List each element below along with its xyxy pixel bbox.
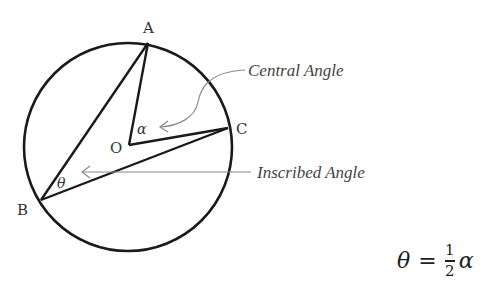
- inscribed-angle-symbol: θ: [57, 175, 66, 191]
- central-angle-symbol: α: [137, 121, 147, 137]
- formula: θ = 1 2 α: [397, 243, 474, 279]
- formula-denominator: 2: [445, 264, 455, 279]
- point-c-label: C: [236, 120, 247, 138]
- formula-alpha: α: [459, 248, 474, 273]
- formula-numerator: 1: [445, 243, 455, 258]
- central-angle-leader: [160, 70, 245, 127]
- formula-theta: θ: [397, 248, 410, 273]
- chord-bc: [41, 128, 228, 200]
- point-o-label: O: [110, 139, 122, 157]
- formula-equals: =: [418, 248, 436, 273]
- formula-fraction: 1 2: [445, 243, 455, 279]
- inscribed-angle-callout: Inscribed Angle: [256, 163, 365, 182]
- point-a-label: A: [142, 19, 154, 37]
- central-angle-callout: Central Angle: [248, 61, 344, 80]
- point-b-label: B: [17, 201, 28, 219]
